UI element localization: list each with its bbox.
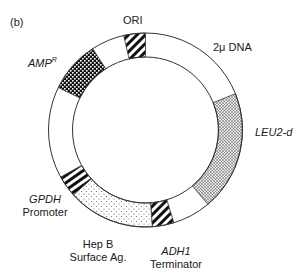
segment-adh1-terminator: [151, 200, 174, 227]
label-ori: ORI: [123, 14, 143, 27]
segment-leu2-d: [192, 94, 242, 205]
label-gpdh-promoter: GPDH Promoter: [20, 193, 70, 219]
label-promoter: Promoter: [20, 206, 70, 219]
panel-label: (b): [10, 16, 23, 29]
label-amp-superscript: R: [52, 56, 57, 63]
label-terminator: Terminator: [146, 258, 206, 271]
label-amp-text: AMP: [28, 57, 52, 69]
label-gpdh: GPDH: [20, 193, 70, 206]
label-hepb: Hep B: [68, 238, 128, 251]
label-surface-ag: Surface Ag.: [68, 251, 128, 264]
label-amp-r: AMPR: [28, 57, 57, 70]
label-2micron-dna: 2μ DNA: [213, 41, 252, 54]
segment-ori: [124, 33, 146, 59]
label-leu2-d: LEU2-d: [255, 126, 292, 139]
label-adh1: ADH1: [146, 245, 206, 258]
label-adh1-terminator: ADH1 Terminator: [146, 245, 206, 271]
ring-inner-edge: [73, 57, 219, 203]
label-hepb-surface-ag: Hep B Surface Ag.: [68, 238, 128, 264]
